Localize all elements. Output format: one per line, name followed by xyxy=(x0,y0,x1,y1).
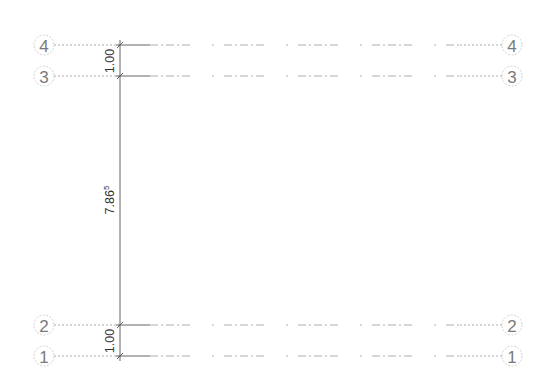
dimension-text-top[interactable]: 1.00 xyxy=(103,49,117,73)
grid-bubble-label: 4 xyxy=(39,37,48,56)
grid-bubble-label: 3 xyxy=(507,68,516,87)
grid-bubble-label: 4 xyxy=(507,37,516,56)
grid-bubble-right-4[interactable]: 4 xyxy=(502,35,522,56)
grid-bubble-right-1[interactable]: 1 xyxy=(502,346,522,367)
grid-bubble-label: 3 xyxy=(39,68,48,87)
dimension-string[interactable]: 1.00 7.865 1.00 xyxy=(102,40,123,361)
grid-drawing-canvas: 1.00 7.865 1.00 4 3 2 1 4 3 2 1 xyxy=(0,0,557,377)
grid-bubble-right-3[interactable]: 3 xyxy=(502,66,522,87)
dimension-superscript-middle: 5 xyxy=(102,185,111,190)
dimension-text-bottom[interactable]: 1.00 xyxy=(103,329,117,353)
grid-bubble-label: 2 xyxy=(507,317,516,336)
grid-bubble-left-2[interactable]: 2 xyxy=(34,315,54,336)
dimension-text-middle[interactable]: 7.865 xyxy=(102,185,117,214)
dimension-value-middle: 7.86 xyxy=(103,190,117,214)
grid-bubble-left-3[interactable]: 3 xyxy=(34,66,54,87)
grid-bubble-label: 2 xyxy=(39,317,48,336)
grid-bubble-left-1[interactable]: 1 xyxy=(34,346,54,367)
grid-bubble-label: 1 xyxy=(507,348,516,367)
grid-bubble-left-4[interactable]: 4 xyxy=(34,35,54,56)
grid-bubble-right-2[interactable]: 2 xyxy=(502,315,522,336)
grid-bubble-label: 1 xyxy=(39,348,48,367)
